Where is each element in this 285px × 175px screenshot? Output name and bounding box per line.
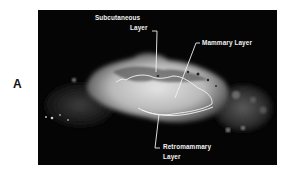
mammary-label: Mammary Layer bbox=[202, 38, 252, 47]
retromammary-label-line1: Retromammary bbox=[163, 142, 211, 151]
retromammary-label-line2: Layer bbox=[163, 152, 181, 161]
tissue-specimen-image bbox=[38, 10, 277, 165]
subcutaneous-label-line2: Layer bbox=[130, 23, 148, 32]
panel-label: A bbox=[13, 77, 22, 91]
tissue-photograph: Subcutaneous Layer Mammary Layer Retroma… bbox=[38, 10, 277, 165]
subcutaneous-label-line1: Subcutaneous bbox=[95, 13, 140, 22]
